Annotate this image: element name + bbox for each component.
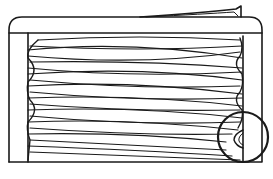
thread-profile-left [27, 40, 38, 160]
helical-thread [28, 37, 242, 160]
cap-drawing [0, 0, 273, 179]
top-flap [140, 6, 241, 17]
